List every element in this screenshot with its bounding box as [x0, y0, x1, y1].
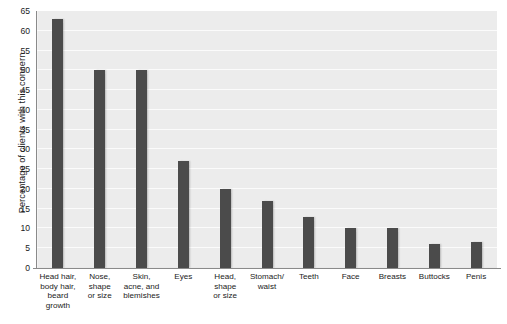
- y-tick-label: 0: [6, 263, 30, 273]
- bar: [52, 19, 63, 268]
- bar: [94, 70, 105, 268]
- y-tick-label: 15: [6, 204, 30, 214]
- y-tick-label: 50: [6, 65, 30, 75]
- bar: [471, 242, 482, 268]
- y-tick-label: 60: [6, 26, 30, 36]
- y-tick-label: 10: [6, 223, 30, 233]
- bar: [136, 70, 147, 268]
- y-tick-label: 40: [6, 105, 30, 115]
- y-tick-label: 35: [6, 125, 30, 135]
- x-tick-label: Penis: [448, 272, 504, 282]
- y-axis-line: [36, 11, 37, 268]
- bars-layer: [37, 11, 497, 268]
- bar: [345, 228, 356, 268]
- y-tick-label: 30: [6, 144, 30, 154]
- bar: [387, 228, 398, 268]
- bar: [220, 189, 231, 268]
- x-axis-line: [33, 268, 501, 269]
- y-tick-label: 45: [6, 85, 30, 95]
- bar-chart: Percentage of clients with this concern …: [0, 0, 507, 324]
- y-tick-label: 5: [6, 243, 30, 253]
- y-tick-label: 55: [6, 46, 30, 56]
- y-tick-label: 65: [6, 6, 30, 16]
- bar: [429, 244, 440, 268]
- bar: [303, 217, 314, 268]
- y-tick-label: 20: [6, 184, 30, 194]
- bar: [262, 201, 273, 268]
- bar: [178, 161, 189, 268]
- y-tick-label: 25: [6, 164, 30, 174]
